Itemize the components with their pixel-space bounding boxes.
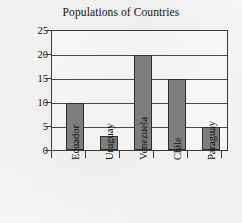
chart-page: Populations of Countries Millions of Peo… — [0, 0, 242, 223]
chart-title: Populations of Countries — [0, 6, 242, 18]
y-tick-label-20: 20 — [26, 50, 48, 60]
x-tick-mark-3 — [153, 151, 154, 158]
x-category-label-chile: Chile — [172, 98, 186, 160]
x-category-label-paraguay: Paraguay — [206, 98, 220, 160]
y-tick-label-0: 0 — [26, 146, 48, 156]
x-tick-mark-4 — [187, 151, 188, 158]
x-tick-mark-2 — [119, 151, 120, 158]
y-tick-label-5: 5 — [26, 122, 48, 132]
y-tick-label-15: 15 — [26, 74, 48, 84]
y-tick-label-10: 10 — [26, 98, 48, 108]
x-tick-mark-0 — [51, 151, 52, 158]
x-category-label-venezuela: Venezuela — [138, 98, 152, 160]
x-tick-mark-5 — [221, 151, 222, 158]
x-category-label-ecuador: Ecuador — [70, 98, 84, 160]
x-category-label-uruguay: Uruguay — [104, 98, 118, 160]
y-tick-label-25: 25 — [26, 26, 48, 36]
x-tick-mark-1 — [85, 151, 86, 158]
